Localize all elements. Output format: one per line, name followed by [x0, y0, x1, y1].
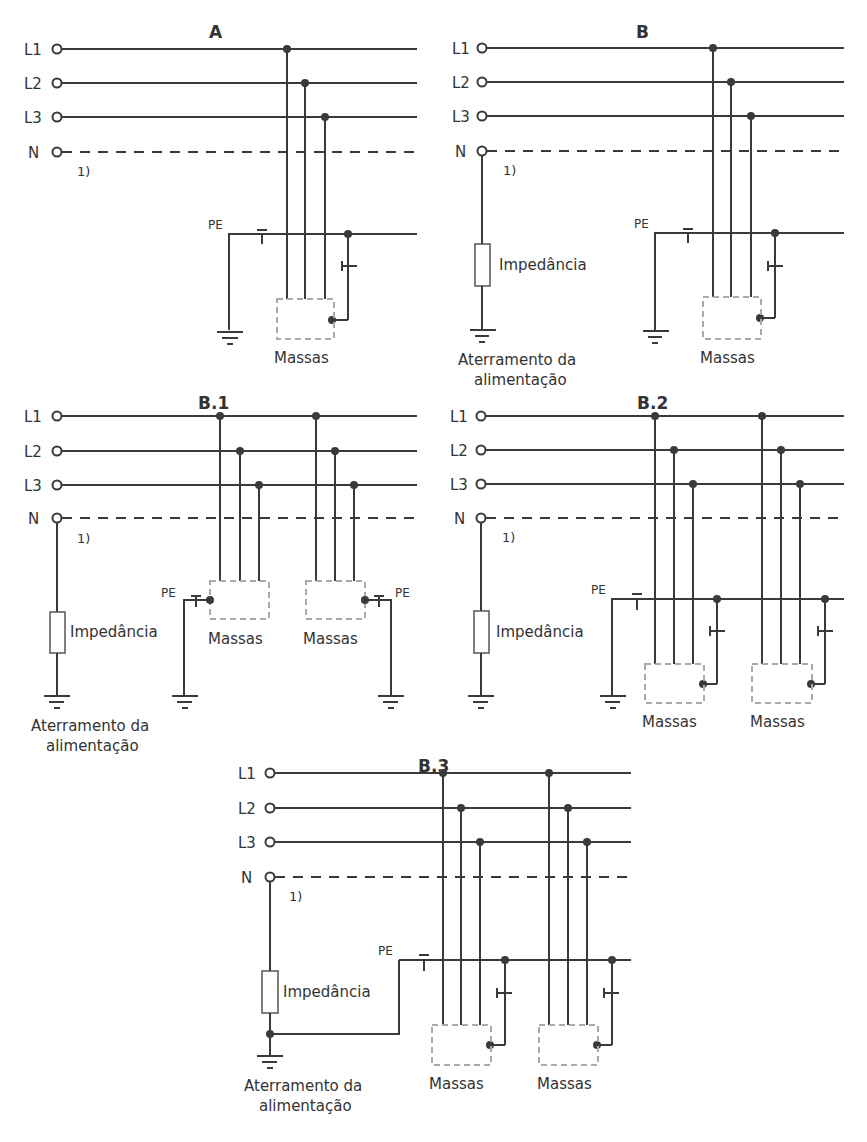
conductor-label-l1: L1 — [24, 41, 42, 59]
terminal-icon — [266, 769, 275, 778]
junction-dot — [670, 446, 678, 454]
junction-dot — [758, 412, 766, 420]
conductor-label-n: N — [454, 510, 465, 528]
masses-box — [432, 1025, 491, 1065]
masses-label: Massas — [274, 349, 329, 367]
ground-icon — [172, 696, 198, 708]
masses-label: Massas — [303, 630, 358, 648]
pe-conductor — [655, 233, 844, 330]
junction-dot — [564, 804, 572, 812]
pe-conductor — [229, 234, 417, 330]
conductor-label-n: N — [241, 869, 252, 887]
junction-dot — [821, 595, 829, 603]
ground-icon — [44, 696, 70, 708]
terminal-icon — [53, 148, 62, 157]
masses-box — [306, 581, 365, 619]
impedance-icon — [262, 971, 278, 1013]
neutral-note: 1) — [503, 163, 516, 178]
masses-box — [210, 581, 269, 619]
masses-box — [645, 664, 704, 703]
conductor-label-l3: L3 — [238, 834, 256, 852]
ground-icon — [257, 1056, 283, 1068]
terminal-icon — [266, 873, 275, 882]
grounding-schemes-diagram: A L1 L2 L3 N 1) PE — [0, 0, 867, 1142]
terminal-icon — [53, 481, 62, 490]
junction-dot — [301, 79, 309, 87]
ground-icon — [217, 332, 243, 344]
panel-b1: B.1 L1 L2 L3 N 1) Impedância Aterramento… — [24, 393, 417, 755]
terminal-icon — [53, 412, 62, 421]
terminal-icon — [53, 79, 62, 88]
panel-b2: B.2 L1 L2 L3 N 1) Impedância PE — [450, 393, 844, 731]
conductor-label-l2: L2 — [24, 75, 42, 93]
junction-dot — [361, 596, 369, 604]
junction-dot — [651, 412, 659, 420]
ground-icon — [600, 696, 626, 708]
conductor-label-l2: L2 — [450, 442, 468, 460]
conductor-label-l3: L3 — [24, 477, 42, 495]
pe-label: PE — [208, 218, 223, 232]
ground-icon — [470, 330, 496, 342]
terminal-icon — [266, 838, 275, 847]
terminal-icon — [478, 44, 487, 53]
conductor-label-l1: L1 — [452, 40, 470, 58]
neutral-note: 1) — [289, 889, 302, 904]
junction-dot — [796, 480, 804, 488]
junction-dot — [747, 112, 755, 120]
junction-dot — [255, 481, 263, 489]
conductor-label-l2: L2 — [24, 443, 42, 461]
panel-title: A — [209, 22, 223, 42]
pe-conductor — [184, 600, 210, 696]
pe-label: PE — [634, 217, 649, 231]
conductor-label-l3: L3 — [24, 109, 42, 127]
grounding-label: alimentação — [46, 737, 139, 755]
terminal-icon — [478, 112, 487, 121]
grounding-label: Aterramento da — [31, 717, 149, 735]
pe-label: PE — [161, 586, 176, 600]
impedance-icon — [474, 611, 489, 653]
junction-dot — [501, 956, 509, 964]
conductor-label-l3: L3 — [450, 476, 468, 494]
conductor-label-n: N — [28, 510, 39, 528]
junction-dot — [727, 78, 735, 86]
grounding-label: Aterramento da — [458, 351, 576, 369]
junction-dot — [476, 838, 484, 846]
impedance-label: Impedância — [70, 623, 158, 641]
panel-a: A L1 L2 L3 N 1) PE — [24, 22, 417, 367]
junction-dot — [216, 412, 224, 420]
terminal-icon — [477, 514, 486, 523]
panel-title: B.2 — [637, 393, 668, 413]
masses-label: Massas — [642, 713, 697, 731]
masses-box — [752, 664, 812, 703]
junction-dot — [608, 956, 616, 964]
neutral-note: 1) — [77, 531, 90, 546]
conductor-label-l1: L1 — [238, 765, 256, 783]
pe-label: PE — [378, 944, 393, 958]
terminal-icon — [478, 147, 487, 156]
grounding-label: alimentação — [474, 371, 567, 389]
junction-dot — [331, 447, 339, 455]
junction-dot — [206, 596, 214, 604]
panel-b: B L1 L2 L3 N 1) Impedância Aterramento d… — [452, 22, 844, 389]
junction-dot — [777, 446, 785, 454]
impedance-label: Impedância — [496, 623, 584, 641]
terminal-icon — [53, 447, 62, 456]
ground-icon — [468, 696, 494, 708]
impedance-label: Impedância — [283, 983, 371, 1001]
grounding-label: alimentação — [259, 1097, 352, 1115]
masses-box — [703, 297, 761, 339]
junction-dot — [236, 447, 244, 455]
masses-label: Massas — [750, 713, 805, 731]
masses-box — [539, 1025, 598, 1065]
terminal-icon — [477, 446, 486, 455]
junction-dot — [689, 480, 697, 488]
pe-label: PE — [395, 586, 410, 600]
masses-label: Massas — [208, 630, 263, 648]
conductor-label-l3: L3 — [452, 108, 470, 126]
impedance-label: Impedância — [499, 256, 587, 274]
junction-dot — [583, 838, 591, 846]
terminal-icon — [266, 804, 275, 813]
impedance-icon — [50, 612, 65, 653]
junction-dot — [439, 769, 447, 777]
conductor-label-n: N — [28, 144, 39, 162]
